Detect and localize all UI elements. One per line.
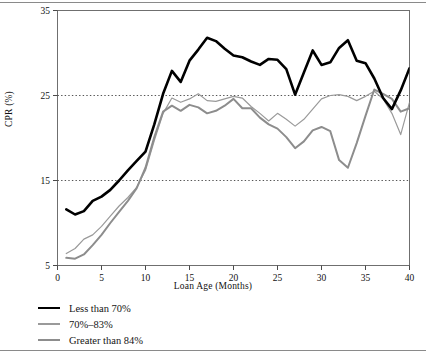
y-axis-title: CPR (%): [4, 102, 14, 116]
legend-label-greater-than-84: Greater than 84%: [69, 335, 143, 346]
y-tick-label-5: 5: [45, 261, 50, 271]
legend-item-greater-than-84: Greater than 84%: [38, 332, 298, 348]
y-tick-label-35: 35: [41, 6, 51, 16]
x-axis-title: Loan Age (Months): [0, 281, 426, 291]
legend-label-70-to-83: 70%–83%: [69, 319, 113, 330]
legend-item-less-than-70: Less than 70%: [38, 300, 298, 316]
y-tick-label-15: 15: [41, 176, 51, 186]
y-tick-label-25: 25: [41, 91, 51, 101]
legend-swatch-less-than-70: [38, 307, 60, 310]
series-line-less-than-70: [66, 38, 409, 215]
legend-item-70-to-83: 70%–83%: [38, 316, 298, 332]
chart-legend: Less than 70% 70%–83% Greater than 84%: [38, 300, 298, 348]
plot-frame: [58, 11, 410, 266]
series-line-70-83: [66, 91, 409, 253]
legend-swatch-70-to-83: [38, 323, 60, 324]
figure-container: 51525350510152025303540 CPR (%) Loan Age…: [0, 0, 426, 355]
series-line-greater-than-84: [66, 90, 409, 259]
series-group: [66, 38, 409, 259]
legend-swatch-greater-than-84: [38, 339, 60, 341]
legend-label-less-than-70: Less than 70%: [69, 303, 131, 314]
